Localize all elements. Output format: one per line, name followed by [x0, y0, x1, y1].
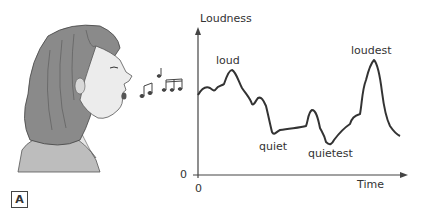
loudness-figure: A Loudness Time 0 0 loud quiet quietest … [0, 0, 424, 221]
x-axis-label: Time [357, 178, 384, 191]
annotation-loud: loud [216, 54, 240, 67]
y-axis-arrow [195, 27, 201, 35]
loudness-curve [198, 60, 400, 144]
annotation-quiet: quiet [259, 140, 287, 153]
y-axis-label: Loudness [200, 12, 252, 25]
y-origin-label: 0 [180, 168, 187, 181]
x-axis-arrow [400, 172, 408, 178]
x-origin-label: 0 [195, 182, 202, 195]
annotation-loudest: loudest [351, 44, 392, 57]
annotation-quietest: quietest [308, 147, 353, 160]
